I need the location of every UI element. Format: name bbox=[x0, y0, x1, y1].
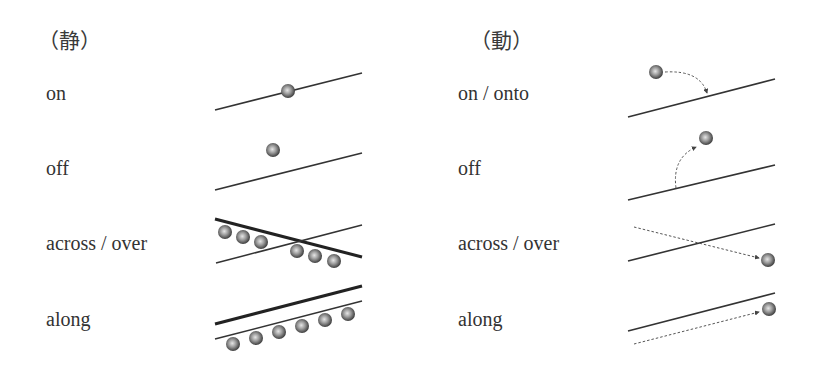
ball-icon bbox=[327, 254, 341, 268]
ball-icon bbox=[254, 235, 268, 249]
ball-icon bbox=[272, 325, 286, 339]
surface-line bbox=[215, 153, 362, 190]
motion-arrow bbox=[665, 72, 707, 93]
ball-icon bbox=[761, 253, 775, 267]
dynamic-off-diagram bbox=[628, 131, 775, 200]
ball-icon bbox=[649, 65, 663, 79]
surface-line bbox=[628, 224, 775, 261]
motion-arrow bbox=[634, 312, 759, 344]
dynamic-across-diagram bbox=[628, 224, 775, 267]
ball-icon bbox=[318, 313, 332, 327]
motion-arrow bbox=[675, 147, 696, 188]
ball-icon bbox=[290, 244, 304, 258]
ball-icon bbox=[281, 84, 295, 98]
surface-line bbox=[215, 301, 362, 339]
ball-icon bbox=[762, 302, 776, 316]
dynamic-onto-diagram bbox=[628, 65, 775, 117]
static-along-diagram bbox=[215, 286, 362, 351]
ball-icon bbox=[699, 131, 713, 145]
ball-icon bbox=[308, 249, 322, 263]
surface-line bbox=[628, 293, 775, 331]
preposition-diagrams bbox=[0, 0, 813, 370]
static-on-diagram bbox=[215, 73, 362, 110]
ball-icon bbox=[266, 143, 280, 157]
ball-icon bbox=[218, 225, 232, 239]
surface-line bbox=[216, 225, 362, 263]
ball-icon bbox=[249, 331, 263, 345]
motion-arrow bbox=[634, 227, 759, 258]
dynamic-along-diagram bbox=[628, 293, 776, 344]
thick-line bbox=[215, 286, 362, 324]
ball-icon bbox=[226, 337, 240, 351]
surface-line bbox=[628, 79, 775, 117]
ball-icon bbox=[236, 230, 250, 244]
static-off-diagram bbox=[215, 143, 362, 190]
static-across-diagram bbox=[215, 219, 362, 268]
ball-icon bbox=[341, 307, 355, 321]
ball-icon bbox=[295, 319, 309, 333]
surface-line bbox=[628, 165, 775, 200]
